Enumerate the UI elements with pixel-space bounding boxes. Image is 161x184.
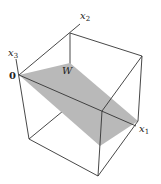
subspace-diagram: x3 x2 x1 0 W — [0, 0, 161, 184]
x3-label: x3 — [8, 47, 18, 60]
plane-w — [19, 63, 138, 146]
x2-label: x2 — [80, 10, 90, 23]
x3-axis — [16, 59, 29, 139]
box-edge-top-back — [70, 33, 142, 56]
box-edge-right-vertical — [138, 56, 142, 121]
x1-label: x1 — [139, 123, 149, 136]
box-edge-top-right — [102, 56, 142, 111]
box-edge-bottom-left — [29, 139, 98, 176]
origin-label: 0 — [9, 70, 16, 81]
plane-label-w: W — [62, 65, 73, 76]
